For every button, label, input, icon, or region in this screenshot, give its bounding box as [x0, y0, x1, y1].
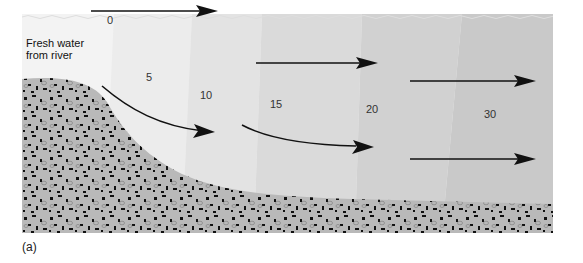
salinity-label-30: 30 [484, 108, 496, 120]
salinity-label-0: 0 [107, 14, 113, 26]
salinity-label-10: 10 [200, 89, 212, 101]
fresh-water-label-line2: from river [26, 49, 116, 61]
arrow-head-icon [193, 124, 215, 138]
salinity-label-15: 15 [270, 98, 282, 110]
arrow-head-icon [352, 140, 374, 154]
salinity-label-20: 20 [366, 103, 378, 115]
fresh-water-label: Fresh water from river [26, 37, 116, 61]
salinity-label-5: 5 [146, 71, 152, 83]
figure-caption: (a) [22, 240, 37, 254]
fresh-water-label-line1: Fresh water [26, 37, 116, 49]
